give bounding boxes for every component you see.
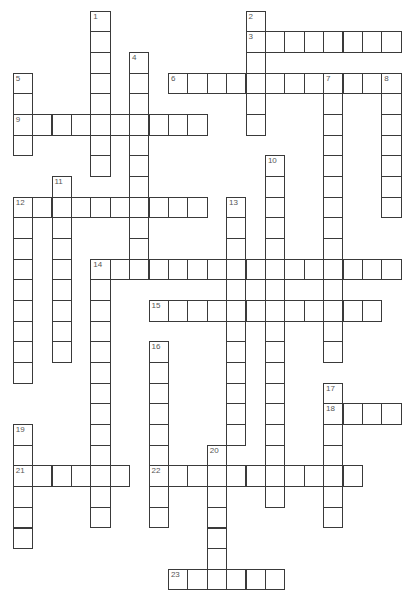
- crossword-cell[interactable]: [13, 321, 33, 343]
- crossword-cell[interactable]: [187, 569, 207, 591]
- crossword-cell[interactable]: [362, 259, 382, 281]
- crossword-cell[interactable]: [90, 31, 110, 53]
- crossword-cell[interactable]: [265, 424, 285, 446]
- crossword-cell[interactable]: 5: [13, 73, 33, 95]
- crossword-cell[interactable]: [13, 528, 33, 550]
- crossword-cell[interactable]: [90, 507, 110, 529]
- crossword-cell[interactable]: [187, 259, 207, 281]
- crossword-cell[interactable]: [323, 93, 343, 115]
- crossword-cell[interactable]: [32, 114, 52, 136]
- crossword-cell[interactable]: [207, 73, 227, 95]
- crossword-cell[interactable]: [265, 569, 285, 591]
- crossword-cell[interactable]: [129, 93, 149, 115]
- crossword-cell[interactable]: [90, 135, 110, 157]
- crossword-cell[interactable]: [13, 238, 33, 260]
- crossword-cell[interactable]: [265, 486, 285, 508]
- crossword-cell[interactable]: [381, 93, 401, 115]
- crossword-cell[interactable]: [149, 424, 169, 446]
- crossword-cell[interactable]: [323, 486, 343, 508]
- crossword-cell[interactable]: [265, 300, 285, 322]
- crossword-cell[interactable]: [246, 259, 266, 281]
- crossword-cell[interactable]: [129, 238, 149, 260]
- crossword-cell[interactable]: [90, 300, 110, 322]
- crossword-cell[interactable]: 2: [246, 11, 266, 33]
- crossword-cell[interactable]: [207, 569, 227, 591]
- crossword-cell[interactable]: [265, 445, 285, 467]
- crossword-cell[interactable]: [246, 73, 266, 95]
- crossword-cell[interactable]: [168, 197, 188, 219]
- crossword-cell[interactable]: [304, 31, 324, 53]
- crossword-cell[interactable]: [52, 197, 72, 219]
- crossword-cell[interactable]: 19: [13, 424, 33, 446]
- crossword-cell[interactable]: [90, 73, 110, 95]
- crossword-cell[interactable]: [149, 507, 169, 529]
- crossword-cell[interactable]: 1: [90, 11, 110, 33]
- crossword-cell[interactable]: [110, 465, 130, 487]
- crossword-cell[interactable]: [13, 300, 33, 322]
- crossword-cell[interactable]: [90, 465, 110, 487]
- crossword-cell[interactable]: [149, 197, 169, 219]
- crossword-cell[interactable]: [226, 403, 246, 425]
- crossword-cell[interactable]: [323, 259, 343, 281]
- crossword-cell[interactable]: [90, 52, 110, 74]
- crossword-cell[interactable]: [207, 528, 227, 550]
- crossword-cell[interactable]: [226, 238, 246, 260]
- crossword-cell[interactable]: [187, 114, 207, 136]
- crossword-cell[interactable]: [226, 341, 246, 363]
- crossword-cell[interactable]: [362, 73, 382, 95]
- crossword-cell[interactable]: [52, 465, 72, 487]
- crossword-cell[interactable]: [343, 259, 363, 281]
- crossword-cell[interactable]: [343, 73, 363, 95]
- crossword-cell[interactable]: 6: [168, 73, 188, 95]
- crossword-cell[interactable]: [323, 135, 343, 157]
- crossword-cell[interactable]: [265, 341, 285, 363]
- crossword-cell[interactable]: [323, 465, 343, 487]
- crossword-cell[interactable]: [362, 403, 382, 425]
- crossword-cell[interactable]: [323, 217, 343, 239]
- crossword-cell[interactable]: [226, 321, 246, 343]
- crossword-cell[interactable]: [265, 321, 285, 343]
- crossword-cell[interactable]: [362, 300, 382, 322]
- crossword-cell[interactable]: [129, 73, 149, 95]
- crossword-cell[interactable]: [304, 73, 324, 95]
- crossword-cell[interactable]: [323, 300, 343, 322]
- crossword-cell[interactable]: [207, 259, 227, 281]
- crossword-cell[interactable]: 14: [90, 259, 110, 281]
- crossword-cell[interactable]: [187, 300, 207, 322]
- crossword-cell[interactable]: [129, 259, 149, 281]
- crossword-cell[interactable]: [323, 341, 343, 363]
- crossword-cell[interactable]: 9: [13, 114, 33, 136]
- crossword-cell[interactable]: [129, 176, 149, 198]
- crossword-cell[interactable]: [90, 321, 110, 343]
- crossword-cell[interactable]: [90, 362, 110, 384]
- crossword-cell[interactable]: [226, 465, 246, 487]
- crossword-cell[interactable]: [90, 424, 110, 446]
- crossword-cell[interactable]: 21: [13, 465, 33, 487]
- crossword-cell[interactable]: [13, 279, 33, 301]
- crossword-cell[interactable]: [207, 507, 227, 529]
- crossword-cell[interactable]: [149, 383, 169, 405]
- crossword-cell[interactable]: [13, 362, 33, 384]
- crossword-cell[interactable]: [381, 114, 401, 136]
- crossword-cell[interactable]: [71, 114, 91, 136]
- crossword-cell[interactable]: [52, 259, 72, 281]
- crossword-cell[interactable]: [226, 279, 246, 301]
- crossword-cell[interactable]: [90, 383, 110, 405]
- crossword-cell[interactable]: [207, 300, 227, 322]
- crossword-cell[interactable]: [13, 486, 33, 508]
- crossword-cell[interactable]: [381, 176, 401, 198]
- crossword-cell[interactable]: [265, 362, 285, 384]
- crossword-cell[interactable]: [284, 465, 304, 487]
- crossword-cell[interactable]: [246, 93, 266, 115]
- crossword-cell[interactable]: [52, 321, 72, 343]
- crossword-cell[interactable]: [343, 300, 363, 322]
- crossword-cell[interactable]: [168, 300, 188, 322]
- crossword-cell[interactable]: [129, 197, 149, 219]
- crossword-cell[interactable]: [226, 569, 246, 591]
- crossword-cell[interactable]: [110, 197, 130, 219]
- crossword-cell[interactable]: [284, 300, 304, 322]
- crossword-cell[interactable]: [323, 176, 343, 198]
- crossword-cell[interactable]: [265, 73, 285, 95]
- crossword-cell[interactable]: [32, 197, 52, 219]
- crossword-cell[interactable]: [129, 114, 149, 136]
